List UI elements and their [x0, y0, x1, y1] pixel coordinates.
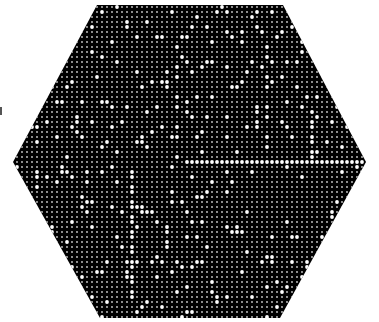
hexagon-dot-figure — [0, 0, 379, 322]
